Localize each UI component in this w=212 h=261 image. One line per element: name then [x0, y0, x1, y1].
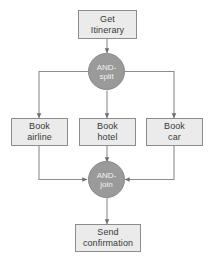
node-book-hotel-label: Book hotel — [97, 121, 118, 143]
node-send-confirmation-label: Send confirmation — [83, 227, 133, 249]
node-book-airline[interactable]: Book airline — [11, 118, 68, 146]
node-and-join[interactable]: AND- join — [88, 161, 125, 198]
edge-car-to-join — [125, 146, 174, 180]
node-book-hotel[interactable]: Book hotel — [79, 118, 136, 146]
node-book-car-label: Book car — [164, 121, 185, 143]
node-get-itinerary[interactable]: Get Itinerary — [78, 10, 137, 39]
flowchart-diagram: Get Itinerary AND- split Book airline Bo… — [0, 0, 212, 261]
node-and-split-label: AND- split — [97, 63, 117, 81]
node-send-confirmation[interactable]: Send confirmation — [75, 224, 141, 252]
node-book-airline-label: Book airline — [27, 121, 52, 143]
node-and-join-label: AND- join — [97, 171, 117, 189]
node-get-itinerary-label: Get Itinerary — [91, 14, 124, 36]
edge-split-right-bus — [124, 72, 175, 79]
edge-airline-to-join — [39, 146, 87, 180]
node-and-split[interactable]: AND- split — [88, 53, 125, 90]
edge-split-left-bus — [39, 72, 89, 79]
node-book-car[interactable]: Book car — [146, 118, 203, 146]
